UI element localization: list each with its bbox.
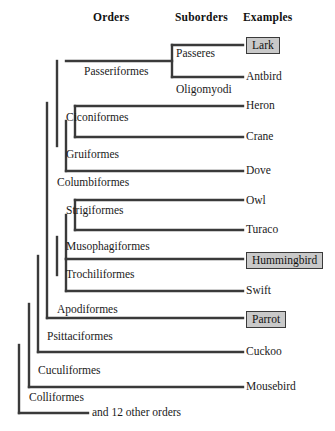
highlighted-tip-parrot: Parrot — [246, 311, 286, 328]
tip-turaco: Turaco — [246, 223, 278, 235]
column-header-suborders: Suborders — [175, 11, 228, 23]
highlighted-tip-lark: Lark — [246, 37, 280, 54]
order-label-trochiliformes: Trochiliformes — [66, 268, 135, 280]
suborder-label-passeres: Passeres — [176, 47, 215, 59]
tip-antbird: Antbird — [246, 70, 282, 82]
order-label-psittaciformes: Psittaciformes — [47, 330, 113, 342]
order-label-musophagiformes: Musophagiformes — [66, 240, 150, 252]
tip-cuckoo: Cuckoo — [246, 345, 282, 357]
cladogram-figure: OrdersSubordersExamples PasseriformesCic… — [0, 0, 335, 431]
tip-owl: Owl — [246, 194, 266, 206]
tip-and-12-other-orders: and 12 other orders — [92, 406, 181, 418]
order-label-ciconiformes: Ciconiformes — [66, 111, 129, 123]
tip-heron: Heron — [246, 99, 275, 111]
column-header-orders: Orders — [93, 11, 129, 23]
highlighted-tip-hummingbird: Hummingbird — [246, 252, 323, 269]
order-label-colliformes: Colliformes — [29, 391, 84, 403]
tip-swift: Swift — [246, 284, 271, 296]
suborder-label-oligomyodi: Oligomyodi — [176, 83, 232, 95]
column-header-examples: Examples — [243, 11, 293, 23]
order-label-columbiformes: Columbiformes — [57, 176, 129, 188]
order-label-strigiformes: Strigiformes — [66, 204, 124, 216]
order-label-cuculiformes: Cuculiformes — [38, 364, 101, 376]
order-label-passeriformes: Passeriformes — [84, 65, 149, 77]
order-label-apodiformes: Apodiformes — [57, 303, 118, 315]
tip-crane: Crane — [246, 130, 273, 142]
order-label-gruiformes: Gruiformes — [66, 148, 119, 160]
tip-mousebird: Mousebird — [246, 380, 296, 392]
tip-dove: Dove — [246, 164, 271, 176]
